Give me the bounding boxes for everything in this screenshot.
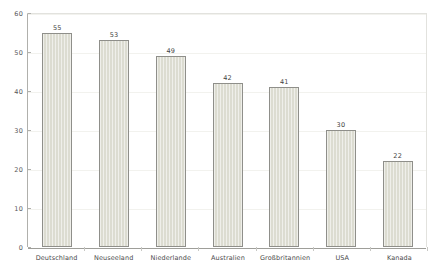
- xlabel-kanada: Kanada: [371, 254, 428, 262]
- bar-kanada[interactable]: 22: [383, 161, 413, 247]
- xaxis-ticks: [28, 247, 428, 251]
- ytick-label-30: 30: [14, 127, 23, 135]
- bar-slot-grossbritannien: 41: [256, 14, 313, 247]
- xlabel-australien: Australien: [199, 254, 256, 262]
- xtick-cell-2: [85, 247, 142, 251]
- bar-slot-kanada: 22: [369, 14, 426, 247]
- ytick-label-50: 50: [14, 49, 23, 57]
- bar-slot-deutschland: 55: [29, 14, 86, 247]
- xaxis-labels: Deutschland Neuseeland Niederlande Austr…: [28, 254, 428, 262]
- bar-usa[interactable]: 30: [326, 130, 356, 247]
- xtick-cell-3: [142, 247, 199, 251]
- bar-value-usa: 30: [337, 121, 346, 129]
- bar-slot-usa: 30: [313, 14, 370, 247]
- xlabel-neuseeland: Neuseeland: [85, 254, 142, 262]
- bar-niederlande[interactable]: 49: [156, 56, 186, 247]
- xlabel-niederlande: Niederlande: [142, 254, 199, 262]
- ytick-label-20: 20: [14, 166, 23, 174]
- bar-deutschland[interactable]: 55: [42, 33, 72, 248]
- xtick-cell-4: [199, 247, 256, 251]
- xlabel-usa: USA: [314, 254, 371, 262]
- xlabel-grossbritannien: Großbritannien: [257, 254, 314, 262]
- ytick-label-10: 10: [14, 205, 23, 213]
- bar-value-neuseeland: 53: [110, 31, 119, 39]
- bar-value-grossbritannien: 41: [280, 78, 289, 86]
- bar-value-australien: 42: [223, 74, 232, 82]
- bar-grossbritannien[interactable]: 41: [269, 87, 299, 247]
- xtick-cell-6: [314, 247, 371, 251]
- ytick-label-0: 0: [19, 244, 23, 252]
- bar-australien[interactable]: 42: [213, 83, 243, 247]
- xtick-cell-1: [28, 247, 85, 251]
- bar-slot-neuseeland: 53: [86, 14, 143, 247]
- xtick-cell-7: [371, 247, 428, 251]
- bar-slot-australien: 42: [199, 14, 256, 247]
- plot-area: 60 50 40 30 20 10 0 55 53: [27, 13, 427, 247]
- bar-value-deutschland: 55: [53, 24, 62, 32]
- xtick-mark-7: [427, 247, 428, 251]
- bar-series: 55 53 49 42 41: [29, 14, 426, 247]
- bar-neuseeland[interactable]: 53: [99, 40, 129, 247]
- xtick-cell-5: [257, 247, 314, 251]
- ytick-label-60: 60: [14, 10, 23, 18]
- bar-slot-niederlande: 49: [142, 14, 199, 247]
- ytick-label-40: 40: [14, 88, 23, 96]
- bar-value-kanada: 22: [393, 152, 402, 160]
- bar-value-niederlande: 49: [166, 47, 175, 55]
- bar-chart: 60 50 40 30 20 10 0 55 53: [0, 0, 434, 269]
- xlabel-deutschland: Deutschland: [28, 254, 85, 262]
